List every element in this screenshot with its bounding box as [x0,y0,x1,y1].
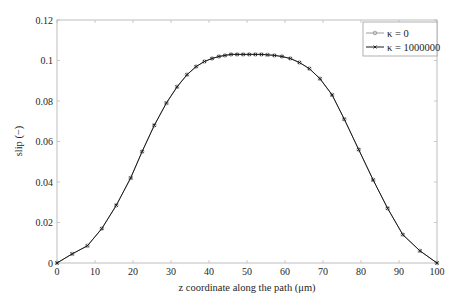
y-axis-label: slip (−) [13,125,25,156]
x-tick-label: 50 [242,266,252,277]
x-tick-label: 90 [394,266,404,277]
x-tick-label: 70 [318,266,328,277]
legend: κ = 0 κ = 1000000 [363,22,440,56]
x-axis-label: z coordinate along the path (μm) [178,282,316,294]
y-tick-labels: 00.020.040.060.080.10.12 [36,15,54,269]
x-tick-label: 0 [55,266,60,277]
y-tick-label: 0.02 [36,217,54,228]
chart: 00.020.040.060.080.10.12 010203040506070… [0,0,465,301]
x-tick-label: 100 [430,266,445,277]
x-tick-label: 40 [204,266,214,277]
legend-label: κ = 0 [387,28,409,39]
y-tick-label: 0 [48,258,53,269]
x-tick-label: 10 [90,266,100,277]
x-tick-label: 80 [356,266,366,277]
y-tick-label: 0.1 [41,55,54,66]
y-tick-label: 0.12 [36,15,54,26]
x-tick-labels: 0102030405060708090100 [55,266,445,277]
legend-label: κ = 1000000 [387,42,440,53]
y-tick-label: 0.06 [36,136,54,147]
x-tick-label: 30 [166,266,176,277]
y-tick-label: 0.08 [36,96,54,107]
y-tick-label: 0.04 [36,177,54,188]
plot-area [57,20,437,263]
x-tick-label: 60 [280,266,290,277]
x-tick-label: 20 [128,266,138,277]
